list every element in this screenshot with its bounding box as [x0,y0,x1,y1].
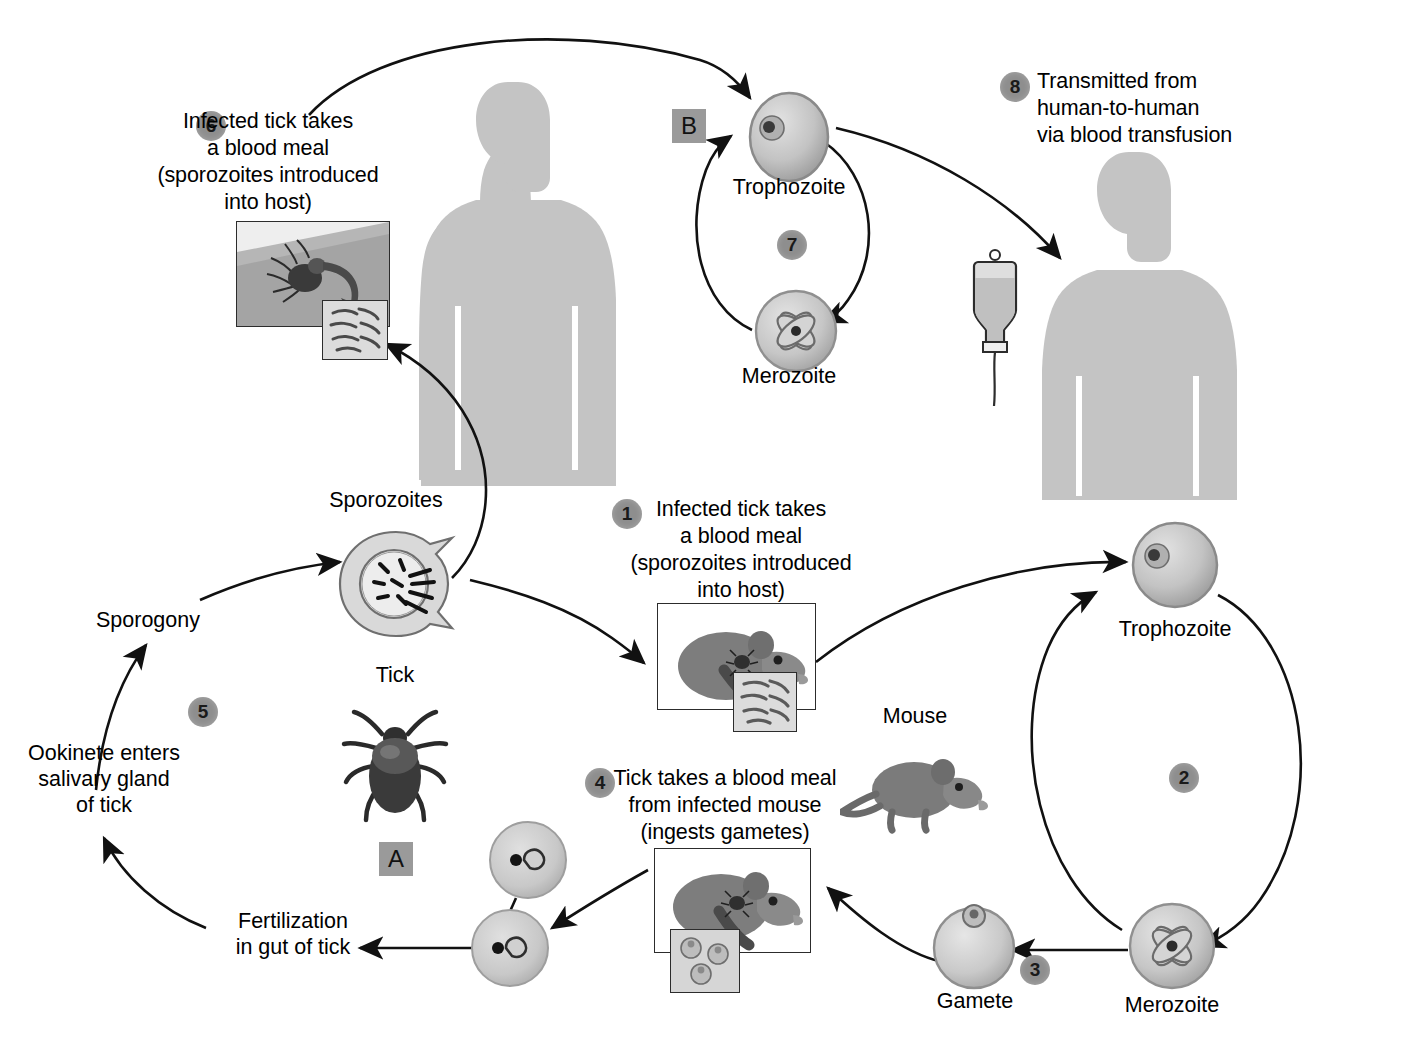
label-trophozoite-bottom: Trophozoite [1075,616,1275,642]
arrow-step6-to-trophozoite [309,39,750,115]
gamete-cell-labeled [930,898,1018,990]
step-4-caption: Tick takes a blood meal from infected mo… [560,765,890,846]
label-fertilization: Fertilization in gut of tick [198,908,388,960]
arrow-sporogony-to-sporozoites [200,562,340,600]
step-badge-5: 5 [188,697,218,727]
label-sporogony: Sporogony [48,607,248,633]
human-host-silhouette [419,82,616,486]
step-badge-7: 7 [777,230,807,260]
salivary-gland-sporozoites [334,524,474,644]
trophozoite-top-cell [744,88,834,186]
human-recipient-silhouette [1042,152,1237,500]
merozoite-bottom-cell [1126,900,1218,992]
tile-A: A [379,842,413,876]
merozoite-top-cell [752,287,840,375]
arrow-merozoite-to-trophozoite-bottom [1032,592,1122,930]
life-cycle-diagram: 6 8 7 1 5 2 4 3 B A Infected tick takes … [0,0,1401,1044]
sporozoites-inset-photo [322,300,388,360]
step-badge-8: 8 [1000,72,1030,102]
trophozoite-bottom-cell [1128,518,1222,612]
step-8-caption: Transmitted from human-to-human via bloo… [1037,68,1297,149]
tile-B: B [672,109,706,143]
step-6-caption: Infected tick takes a blood meal (sporoz… [108,108,428,216]
label-mouse: Mouse [845,703,985,729]
label-ookinete: Ookinete enters salivary gland of tick [0,740,214,818]
gamete-cell-upper [486,818,570,902]
label-sporozoites: Sporozoites [276,487,496,513]
step-badge-2: 2 [1169,763,1199,793]
gamete-cell-lower [468,906,552,990]
sporozoites-inset-step1 [733,672,797,732]
arrow-trophozoite-to-merozoite-bottom [1202,595,1301,946]
tick-illustration [330,700,460,830]
gametes-inset-step4 [670,929,740,993]
arrow-gamete-to-mouse [828,888,942,962]
label-merozoite-bottom: Merozoite [1072,992,1272,1018]
iv-drip-bag [960,248,1030,408]
arrow-fertilization-to-ookinete [104,838,206,928]
label-trophozoite-top: Trophozoite [689,174,889,200]
label-gamete: Gamete [905,988,1045,1014]
step-badge-3: 3 [1020,955,1050,985]
step-1-caption: Infected tick takes a blood meal (sporoz… [576,496,906,604]
label-tick: Tick [330,662,460,688]
label-merozoite-top: Merozoite [689,363,889,389]
